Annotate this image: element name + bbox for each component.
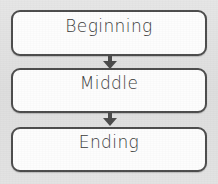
flowchart-node-label: Ending <box>13 132 205 152</box>
arrow-head <box>103 118 117 126</box>
flowchart-node-label: Middle <box>13 73 205 93</box>
flowchart-node-ending[interactable]: Ending <box>11 127 207 172</box>
flowchart-node-label: Beginning <box>13 16 205 36</box>
flowchart-node-middle[interactable]: Middle <box>11 68 207 113</box>
flowchart-canvas: Beginning Middle Ending <box>0 0 218 184</box>
flowchart-node-beginning[interactable]: Beginning <box>11 10 207 56</box>
arrow-down-icon <box>102 55 118 69</box>
arrow-down-icon <box>102 112 118 126</box>
